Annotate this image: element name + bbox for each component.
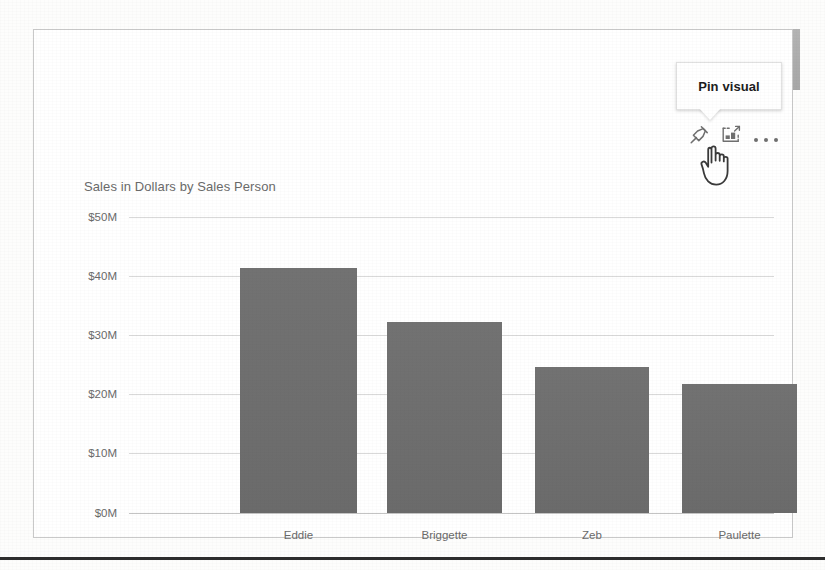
tooltip-arrow [699,108,721,120]
plot-area: $50M $40M $30M $20M $10M $0M Eddie Brigg… [129,217,774,515]
tooltip: Pin visual [676,62,782,110]
axis-baseline [129,513,774,514]
page-bottom-rule [0,557,825,560]
xlabel-paulette: Paulette [682,529,797,541]
ytick-label-30m: $30M [88,329,117,341]
tooltip-label: Pin visual [698,79,760,94]
chart-title: Sales in Dollars by Sales Person [84,179,276,194]
ytick-label-20m: $20M [88,388,117,400]
bar-chart: $50M $40M $30M $20M $10M $0M Eddie Brigg… [82,208,782,533]
ellipsis-dot [774,138,778,142]
xlabel-eddie: Eddie [240,529,357,541]
xlabel-zeb: Zeb [535,529,649,541]
xlabel-briggette: Briggette [387,529,502,541]
bar-eddie[interactable] [240,268,357,513]
gridline-40m [129,276,774,277]
bar-zeb[interactable] [535,367,649,513]
ytick-label-10m: $10M [88,447,117,459]
bar-paulette[interactable] [682,384,797,513]
ytick-label-40m: $40M [88,270,117,282]
ellipsis-dot [754,138,758,142]
ytick-label-50m: $50M [88,211,117,223]
bar-briggette[interactable] [387,322,502,513]
ytick-label-0m: $0M [95,507,117,519]
hand-cursor [697,140,743,190]
ellipsis-dot [764,138,768,142]
gridline-50m [129,217,774,218]
screenshot-root: Sales in Dollars by Sales Person $50M $4… [0,0,825,570]
more-options-icon[interactable] [754,124,778,146]
